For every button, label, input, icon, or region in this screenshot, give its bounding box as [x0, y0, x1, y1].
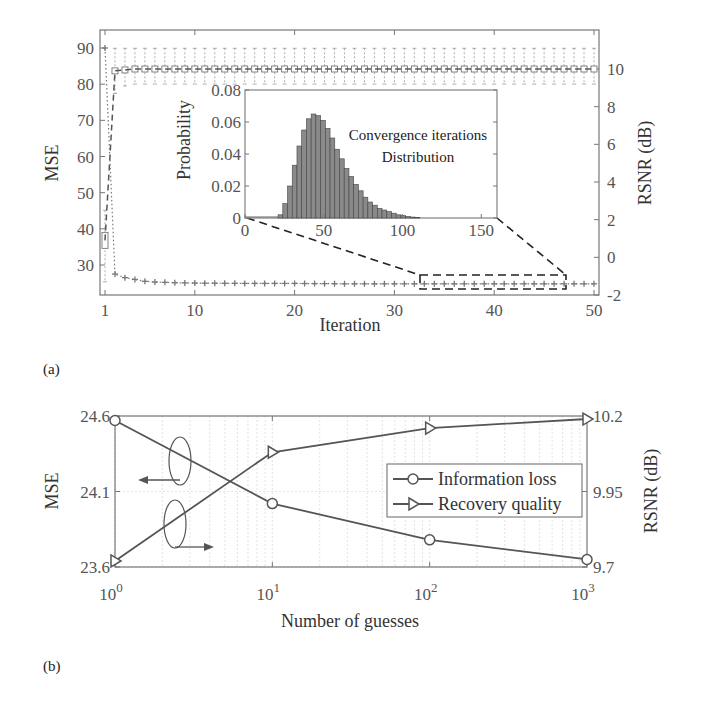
histogram-bar [283, 204, 288, 218]
panel-b-right-y-label: RSNR (dB) [641, 449, 662, 534]
left-y-tick-label: 40 [77, 220, 94, 239]
inset-y-tick-label: 0.04 [211, 145, 241, 164]
histogram-bar [406, 216, 411, 218]
axis-indicator-mse [138, 437, 191, 485]
right-y-tick-label: 0 [607, 248, 616, 267]
x-tick-label: 101 [257, 580, 281, 604]
histogram-bar [401, 216, 406, 218]
triangle-marker-icon [268, 446, 278, 458]
legend-item-information-loss: Information loss [438, 469, 557, 489]
inset-y-tick-label: 0.02 [211, 177, 241, 196]
zoom-connector-right [497, 218, 566, 275]
x-tick-label: 103 [571, 580, 595, 604]
right-y-tick-label: -2 [607, 286, 621, 305]
panel-a-right-y-label: RSNR (dB) [635, 121, 656, 206]
left-y-tick-label: 30 [77, 256, 94, 275]
panel-a-left-y-ticks: 30405060708090 [77, 39, 105, 275]
inset-axes-box [245, 90, 497, 218]
right-y-tick-label: 8 [607, 98, 616, 117]
histogram-bar [288, 186, 293, 218]
histogram-bar [396, 215, 401, 218]
legend: Information loss Recovery quality [387, 464, 582, 517]
histogram-bar [330, 138, 335, 218]
histogram-bar [358, 191, 363, 218]
left-y-tick-label: 80 [77, 75, 94, 94]
triangle-marker-icon [583, 413, 593, 425]
right-y-tick-label: 10.2 [593, 407, 623, 426]
panel-a-left-y-label: MSE [42, 144, 62, 181]
triangle-marker-icon [426, 422, 436, 434]
left-y-tick-label: 90 [77, 39, 94, 58]
inset-annotation-line2: Distribution [382, 149, 455, 165]
x-tick-label: 20 [286, 301, 303, 320]
left-y-tick-label: 23.6 [80, 558, 110, 577]
figure: 11020304050 30405060708090 -20246810 Ite… [0, 0, 707, 708]
histogram-bar [373, 205, 378, 218]
inset-y-tick-label: 0.06 [211, 113, 241, 132]
arrow-left-icon [138, 476, 148, 484]
histogram-bar [292, 165, 297, 218]
panel-b-label: (b) [43, 658, 61, 675]
histogram-bar [344, 168, 349, 218]
right-y-tick-label: 4 [607, 173, 616, 192]
histogram-bar [311, 114, 316, 218]
inset-y-tick-label: 0.08 [211, 81, 241, 100]
circle-marker-icon [267, 499, 277, 509]
inset-histogram: 05010015000.020.040.060.08 Probability C… [174, 81, 497, 240]
histogram-bar [302, 130, 307, 218]
histogram-bar [335, 149, 340, 218]
histogram-bar [297, 146, 302, 218]
panel-a-label: (a) [43, 361, 60, 378]
panel-b-x-label: Number of guesses [281, 611, 419, 631]
circle-marker-icon [582, 554, 592, 564]
x-tick-label: 102 [414, 580, 438, 604]
left-y-tick-label: 60 [77, 148, 94, 167]
histogram-bar [340, 159, 345, 218]
arrow-right-icon [204, 543, 214, 551]
histogram-bar [278, 215, 283, 218]
panel-b-chart: 10010110210323.624.124.69.79.9510.2 Info… [42, 407, 662, 675]
x-tick-label: 10 [186, 301, 203, 320]
left-y-tick-label: 24.6 [80, 407, 110, 426]
right-y-tick-label: 9.7 [593, 558, 615, 577]
x-tick-label: 50 [586, 301, 603, 320]
x-tick-label: 100 [99, 580, 123, 604]
circle-marker-icon [408, 474, 418, 484]
inset-x-tick-label: 150 [469, 221, 495, 240]
inset-y-tick-label: 0 [233, 209, 242, 228]
inset-annotation-line1: Convergence iterations [349, 127, 488, 143]
histogram-bar [306, 119, 311, 218]
histogram-bar [387, 212, 392, 218]
right-y-tick-label: 2 [607, 211, 616, 230]
panel-a-x-label: Iteration [320, 315, 381, 335]
inset-y-label: Probability [174, 100, 194, 180]
inset-x-tick-label: 100 [390, 221, 416, 240]
histogram-bar [321, 120, 326, 218]
histogram-bar [316, 116, 321, 218]
histogram-bar [363, 197, 368, 218]
circle-marker-icon [110, 416, 120, 426]
x-tick-label: 40 [486, 301, 503, 320]
left-y-tick-label: 50 [77, 184, 94, 203]
right-y-tick-label: 10 [607, 60, 624, 79]
left-y-tick-label: 70 [77, 111, 94, 130]
histogram-bar [325, 128, 330, 218]
histogram-bar [391, 213, 396, 218]
legend-item-recovery-quality: Recovery quality [438, 494, 561, 514]
histogram-bar [354, 184, 359, 218]
histogram-bar [349, 176, 354, 218]
panel-a-chart: 11020304050 30405060708090 -20246810 Ite… [42, 30, 656, 378]
right-y-tick-label: 6 [607, 135, 616, 154]
histogram-bar [410, 217, 415, 218]
histogram-bar [382, 210, 387, 218]
x-tick-label: 30 [386, 301, 403, 320]
axis-indicator-rsnr [164, 500, 214, 551]
histogram-bar [368, 202, 373, 218]
right-y-tick-label: 9.95 [593, 483, 623, 502]
panel-b-left-y-label: MSE [42, 472, 62, 509]
inset-x-tick-label: 0 [241, 221, 250, 240]
left-y-tick-label: 24.1 [80, 483, 110, 502]
circle-marker-icon [425, 535, 435, 545]
histogram-bar [377, 208, 382, 218]
inset-x-tick-label: 50 [315, 221, 332, 240]
